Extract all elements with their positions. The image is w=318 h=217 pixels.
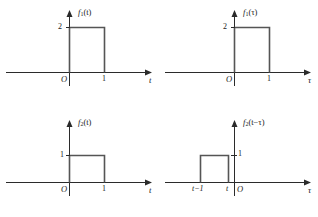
y-tick-label-amplitude: 2 — [58, 23, 62, 31]
plot-axes-f2-t-minus-tau — [159, 108, 318, 216]
x-axis-label: t — [149, 186, 151, 195]
origin-label: O — [61, 75, 67, 84]
function-label: f1(τ) — [243, 8, 257, 17]
plot-axes-f1-tau — [159, 0, 318, 108]
x-tick-label-t: t — [226, 185, 228, 193]
y-axis-arrow-icon — [67, 120, 73, 127]
plot-panel-f1-t: f1(t) t O 2 1 — [0, 0, 159, 108]
x-axis-label: τ — [308, 186, 311, 195]
y-tick-label-amplitude: 1 — [60, 151, 64, 159]
pulse-waveform — [201, 156, 229, 183]
x-tick-label-1: 1 — [102, 75, 106, 83]
y-axis-arrow-icon — [67, 10, 73, 17]
figure-sheet: f1(t) t O 2 1 f1(τ) τ O 2 1 f2(t) — [0, 0, 318, 217]
function-label: f2(t−τ) — [243, 118, 265, 127]
y-axis-arrow-icon — [232, 10, 238, 17]
x-axis-label: τ — [308, 76, 311, 85]
x-tick-label-1: 1 — [267, 75, 271, 83]
y-tick-label-amplitude: 1 — [238, 150, 242, 158]
x-axis-label: t — [149, 76, 151, 85]
pulse-waveform — [70, 156, 105, 183]
x-tick-label-1: 1 — [102, 185, 106, 193]
origin-label: O — [237, 185, 243, 194]
pulse-waveform — [70, 28, 105, 73]
function-label: f1(t) — [78, 8, 91, 17]
plot-panel-f1-tau: f1(τ) τ O 2 1 — [159, 0, 318, 108]
y-axis-arrow-icon — [232, 120, 238, 127]
plot-panel-f2-t: f2(t) t O 1 1 — [0, 108, 159, 216]
pulse-waveform — [235, 28, 270, 73]
function-label: f2(t) — [78, 118, 91, 127]
y-tick-label-amplitude: 2 — [223, 23, 227, 31]
origin-label: O — [226, 75, 232, 84]
x-tick-label-t-minus-1: t−1 — [192, 185, 204, 193]
plot-panel-f2-t-minus-tau: f2(t−τ) τ O 1 t−1 t — [159, 108, 318, 216]
origin-label: O — [61, 185, 67, 194]
